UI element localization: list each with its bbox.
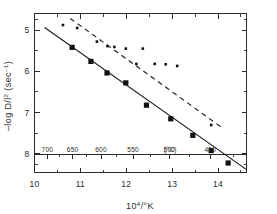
data-point-square: [144, 103, 149, 108]
x-tick-label: 14: [213, 179, 223, 189]
celsius-tick-label: 700: [42, 146, 54, 153]
celsius-tick-label: 600: [95, 146, 107, 153]
data-point-dot: [76, 27, 79, 30]
data-point-dot: [210, 124, 213, 127]
y-tick-label: 5: [24, 25, 29, 35]
celsius-tick-label: 550: [127, 146, 139, 153]
y-tick-label: 6: [24, 66, 29, 76]
y-tick-label: 7: [24, 108, 29, 118]
dashed-fit-line: [70, 18, 221, 127]
tick-label-group: 10111213145678700650600550500450(°C): [24, 25, 223, 188]
x-axis-title: 104/°K: [126, 200, 154, 212]
celsius-tick-label: 450: [204, 146, 216, 153]
x-tick-label: 13: [167, 179, 177, 189]
data-point-dot: [96, 40, 99, 43]
data-point-dot: [135, 63, 138, 66]
data-point-square: [88, 59, 93, 64]
data-point-dot: [176, 65, 179, 68]
data-point-square: [168, 116, 173, 121]
x-tick-label: 12: [121, 179, 131, 189]
data-point-dot: [113, 46, 116, 49]
celsius-axis-label: (°C): [164, 146, 177, 154]
data-point-square: [123, 80, 128, 85]
y-axis-title: –log D/l2 (sec–1): [2, 61, 14, 131]
data-point-square: [70, 45, 75, 50]
y-tick-label: 8: [24, 149, 29, 159]
data-point-dot: [125, 47, 128, 50]
data-point-dot: [106, 45, 109, 48]
data-point-square: [190, 133, 195, 138]
x-tick-label: 10: [29, 179, 39, 189]
data-point-dot: [141, 47, 144, 50]
celsius-tick-label: 650: [67, 146, 79, 153]
x-tick-label: 11: [76, 179, 85, 189]
data-point-dot: [62, 24, 65, 27]
arrhenius-scatter-plot: 10111213145678700650600550500450(°C) 104…: [0, 0, 277, 214]
data-point-dot: [153, 63, 156, 66]
data-point-square: [104, 70, 109, 75]
data-point-square: [226, 160, 231, 165]
data-point-dot: [164, 63, 167, 66]
figure-container: 10111213145678700650600550500450(°C) 104…: [0, 0, 277, 214]
data-point-group: [62, 24, 231, 166]
